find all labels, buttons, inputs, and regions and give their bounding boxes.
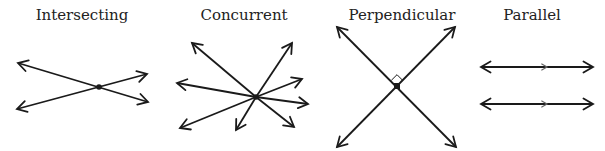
perpendicular-lines-diagram — [337, 27, 456, 147]
arrowhead-icon — [282, 43, 292, 54]
intersecting-lines-diagram — [17, 60, 148, 111]
line — [18, 63, 148, 102]
ray — [192, 43, 256, 97]
concurrent-lines-diagram — [177, 43, 308, 130]
parallel-lines-diagram — [481, 62, 593, 110]
ray — [177, 83, 256, 97]
intersection-point — [253, 94, 259, 100]
diagram-canvas — [0, 0, 605, 151]
intersection-point — [96, 84, 102, 90]
line — [17, 74, 147, 109]
ray — [256, 43, 292, 97]
intersection-point — [394, 83, 400, 89]
ray — [180, 97, 256, 128]
right-angle-marker — [391, 75, 402, 81]
